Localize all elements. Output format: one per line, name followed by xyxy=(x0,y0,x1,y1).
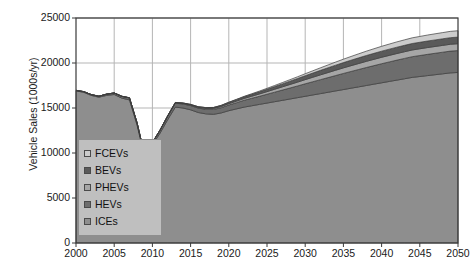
x-tick-label: 2045 xyxy=(400,248,440,259)
legend-item[interactable]: FCEVs xyxy=(84,145,157,162)
x-tick-label: 2005 xyxy=(94,248,134,259)
chart-legend: FCEVsBEVsPHEVsHEVsICEs xyxy=(78,139,162,236)
legend-swatch-icon xyxy=(84,201,91,208)
x-tick-label: 2010 xyxy=(132,248,172,259)
chart-container: Vehicle Sales (1000s/yr) 050001000015000… xyxy=(0,0,476,277)
legend-item[interactable]: BEVs xyxy=(84,162,157,179)
x-tick-label: 2020 xyxy=(209,248,249,259)
legend-item-label: BEVs xyxy=(95,165,121,176)
legend-item-label: FCEVs xyxy=(95,148,128,159)
legend-item-label: ICEs xyxy=(95,216,118,227)
x-tick-label: 2030 xyxy=(285,248,325,259)
legend-item[interactable]: PHEVs xyxy=(84,179,157,196)
x-tick-label: 2015 xyxy=(171,248,211,259)
x-tick-label: 2025 xyxy=(247,248,287,259)
legend-swatch-icon xyxy=(84,167,91,174)
x-tick-label: 2040 xyxy=(362,248,402,259)
legend-item-label: HEVs xyxy=(95,199,122,210)
legend-swatch-icon xyxy=(84,184,91,191)
x-tick-label: 2050 xyxy=(438,248,476,259)
x-tick-label: 2035 xyxy=(323,248,363,259)
legend-swatch-icon xyxy=(84,218,91,225)
legend-item-label: PHEVs xyxy=(95,182,129,193)
plot-area-svg xyxy=(0,0,476,277)
legend-item[interactable]: ICEs xyxy=(84,213,157,230)
legend-swatch-icon xyxy=(84,150,91,157)
x-tick-label: 2000 xyxy=(56,248,96,259)
legend-item[interactable]: HEVs xyxy=(84,196,157,213)
